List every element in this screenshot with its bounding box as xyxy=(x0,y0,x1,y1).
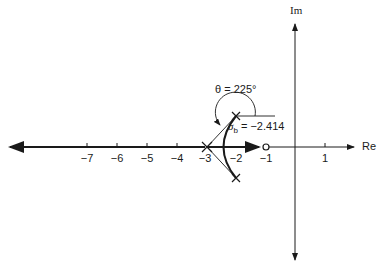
re-label: Re xyxy=(362,140,376,152)
sigma-subscript: b xyxy=(233,126,237,135)
root-locus-plot xyxy=(0,0,382,270)
tick-label: −2 xyxy=(230,152,243,164)
zero-marker xyxy=(263,144,269,150)
tick-label: 1 xyxy=(322,152,328,164)
tick-label: −1 xyxy=(260,152,273,164)
theta-label: θ = 225° xyxy=(215,83,256,95)
tick-label: −6 xyxy=(111,152,124,164)
im-label: Im xyxy=(290,4,302,16)
tick-label: −4 xyxy=(171,152,184,164)
tick-label: −3 xyxy=(199,152,212,164)
tick-label: −7 xyxy=(81,152,94,164)
tick-label: −5 xyxy=(141,152,154,164)
sigma-value: = −2.414 xyxy=(241,120,284,132)
breakaway-label: σb = −2.414 xyxy=(228,120,284,135)
